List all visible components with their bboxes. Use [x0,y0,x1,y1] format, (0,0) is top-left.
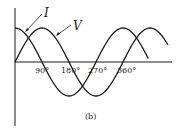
tick-180: 180° [61,66,80,75]
current-label: I [43,6,49,20]
figure-caption: (b) [85,112,96,121]
voltage-leader-arrow [56,32,60,36]
phase-diagram: I V 90° 180° 270° 360° (b) [0,0,182,130]
tick-270: 270° [88,66,107,75]
diagram-canvas: I V 90° 180° 270° 360° (b) [0,0,182,130]
voltage-label: V [73,19,83,33]
tick-90: 90° [35,66,49,75]
tick-360: 360° [117,66,136,75]
